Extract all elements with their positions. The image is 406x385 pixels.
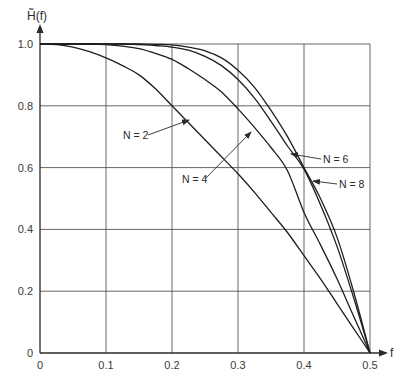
axes xyxy=(37,24,389,357)
curves xyxy=(40,44,370,353)
annotation-label: N = 6 xyxy=(323,153,349,165)
annotation-label: N = 2 xyxy=(123,129,149,141)
y-tick-label: 0.8 xyxy=(18,100,33,112)
x-tick-label: 0.5 xyxy=(362,359,377,371)
y-tick-label: 0 xyxy=(27,347,33,359)
y-tick-label: 1.0 xyxy=(18,38,33,50)
y-tick-label: 0.2 xyxy=(18,285,33,297)
y-tick-label: 0.6 xyxy=(18,162,33,174)
curve-n8 xyxy=(40,44,370,353)
annotation-arrow-icon xyxy=(148,120,189,135)
x-tick-label: 0.2 xyxy=(164,359,179,371)
x-axis-arrow-icon xyxy=(379,350,388,357)
x-axis-label: f xyxy=(390,346,394,360)
x-tick-label: 0.1 xyxy=(98,359,113,371)
annotation-label: N = 4 xyxy=(182,173,208,185)
y-axis-label: H̃(f) xyxy=(27,8,47,23)
x-tick-label: 0 xyxy=(37,359,43,371)
frequency-response-chart: 00.20.40.60.81.000.10.20.30.40.5 N = 2N … xyxy=(0,0,406,385)
annotation-label: N = 8 xyxy=(339,178,365,190)
annotation-arrow-icon xyxy=(313,181,337,184)
x-tick-label: 0.3 xyxy=(230,359,245,371)
y-tick-label: 0.4 xyxy=(18,223,33,235)
x-tick-label: 0.4 xyxy=(296,359,311,371)
annotation-arrow-icon xyxy=(205,132,251,179)
y-axis-arrow-icon xyxy=(37,24,44,33)
